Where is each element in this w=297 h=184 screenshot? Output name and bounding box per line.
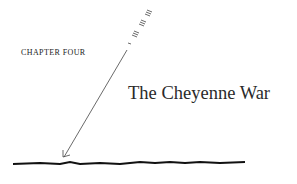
ground-line [0,0,297,184]
